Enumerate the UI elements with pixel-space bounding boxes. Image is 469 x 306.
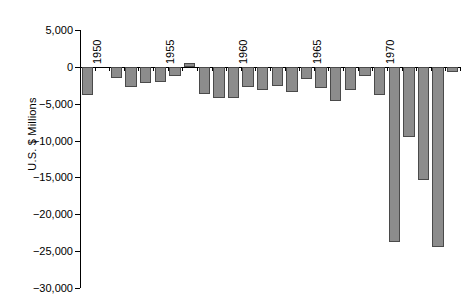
y-axis-tick-label: −15,000 [13, 171, 73, 183]
bar [447, 67, 458, 72]
y-axis-tick-label: −30,000 [13, 282, 73, 294]
bar [169, 67, 180, 76]
x-axis-tick [358, 67, 359, 71]
y-axis-tick [75, 141, 80, 142]
bar [199, 67, 210, 94]
bar [140, 67, 151, 83]
bar [403, 67, 414, 137]
plot-area: 5,0000−5,000−10,000−15,000−20,000−25,000… [80, 30, 460, 288]
bar [228, 67, 239, 98]
bar [184, 63, 195, 67]
chart-container: U.S. $ Millions 5,0000−5,000−10,000−15,0… [0, 0, 469, 306]
bar [301, 67, 312, 79]
x-axis-tick [255, 67, 256, 71]
bar [272, 67, 283, 86]
x-axis-tick [197, 67, 198, 71]
y-axis-tick [75, 214, 80, 215]
bar [82, 67, 93, 95]
x-axis-tick-label: 1965 [311, 39, 323, 63]
x-axis-tick [314, 67, 315, 71]
x-axis-tick [95, 67, 96, 71]
x-axis-tick-label: 1950 [91, 39, 103, 63]
x-axis-tick [182, 67, 183, 71]
x-axis-tick [241, 67, 242, 71]
x-axis-tick [402, 67, 403, 71]
x-axis-tick [124, 67, 125, 71]
bar [257, 67, 268, 91]
y-axis-tick [75, 251, 80, 252]
x-axis-tick [431, 67, 432, 71]
x-axis-tick [212, 67, 213, 71]
x-axis-tick [80, 67, 81, 71]
y-axis-tick-label: 5,000 [13, 24, 73, 36]
x-axis-tick [372, 67, 373, 71]
y-axis-tick-label: −20,000 [13, 208, 73, 220]
bar [111, 67, 122, 78]
x-axis-tick [460, 67, 461, 71]
x-axis-tick [285, 67, 286, 71]
bar [213, 67, 224, 98]
x-axis-tick [328, 67, 329, 71]
bar [155, 67, 166, 82]
bar [359, 67, 370, 77]
bar [315, 67, 326, 88]
y-axis-tick-label: −10,000 [13, 135, 73, 147]
y-axis-tick-label: −5,000 [13, 98, 73, 110]
bar [418, 67, 429, 181]
x-axis-tick-label: 1970 [384, 39, 396, 63]
x-axis-tick [226, 67, 227, 71]
x-axis-tick [270, 67, 271, 71]
x-axis-tick [138, 67, 139, 71]
bar [374, 67, 385, 95]
bar [345, 67, 356, 91]
x-axis-tick [343, 67, 344, 71]
x-axis-tick [416, 67, 417, 71]
y-axis-tick [75, 177, 80, 178]
y-axis-tick [75, 288, 80, 289]
y-axis-tick [75, 104, 80, 105]
bar [242, 67, 253, 87]
bar [432, 67, 443, 247]
x-axis-tick-label: 1955 [164, 39, 176, 63]
bar [286, 67, 297, 92]
x-axis-tick [299, 67, 300, 71]
x-axis-tick [445, 67, 446, 71]
x-axis-tick-label: 1960 [237, 39, 249, 63]
y-axis-tick [75, 30, 80, 31]
bar [389, 67, 400, 242]
x-axis-tick [168, 67, 169, 71]
bar [125, 67, 136, 88]
x-axis-tick [109, 67, 110, 71]
bar [330, 67, 341, 102]
y-axis-tick-label: 0 [13, 61, 73, 73]
y-axis-tick-label: −25,000 [13, 245, 73, 257]
x-axis-tick [387, 67, 388, 71]
x-axis-tick [153, 67, 154, 71]
